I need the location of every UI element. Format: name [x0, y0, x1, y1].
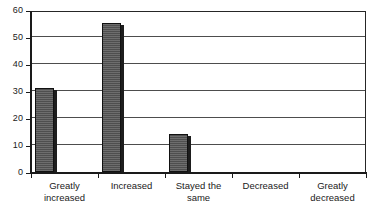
plot-area — [31, 11, 366, 173]
y-tick-label: 50 — [0, 33, 23, 42]
bar — [35, 88, 54, 172]
bar — [169, 134, 188, 172]
y-tick-50 — [26, 38, 31, 39]
x-axis-line — [31, 172, 367, 174]
bar — [102, 23, 121, 172]
x-tick — [31, 173, 32, 178]
y-tick-label: 60 — [0, 6, 23, 15]
x-tick — [98, 173, 99, 178]
bar-group — [102, 12, 125, 172]
gridline-30 — [32, 90, 365, 91]
y-tick-label: 20 — [0, 114, 23, 123]
gridline-40 — [32, 63, 365, 64]
x-tick — [165, 173, 166, 178]
x-tick — [299, 173, 300, 178]
y-tick-30 — [26, 92, 31, 93]
x-tick-label: Stayed the same — [165, 180, 232, 203]
x-tick-label: Greatly increased — [31, 180, 98, 203]
y-tick-10 — [26, 146, 31, 147]
bar-group — [35, 12, 58, 172]
x-tick — [232, 173, 233, 178]
gridline-20 — [32, 117, 365, 118]
x-tick-label: Decreased — [232, 180, 299, 192]
y-tick-label: 10 — [0, 141, 23, 150]
gridline-50 — [32, 36, 365, 37]
x-tick-label: Greatly decreased — [299, 180, 366, 203]
x-tick — [366, 173, 367, 178]
gridline-10 — [32, 144, 365, 145]
y-tick-label: 40 — [0, 60, 23, 69]
x-tick-label: Increased — [98, 180, 165, 192]
y-tick-40 — [26, 65, 31, 66]
y-tick-label: 30 — [0, 87, 23, 96]
bar-group — [169, 12, 192, 172]
bar-chart: 0102030405060 Greatly increasedIncreased… — [0, 0, 376, 211]
y-tick-20 — [26, 119, 31, 120]
y-tick-label: 0 — [0, 168, 23, 177]
y-tick-60 — [26, 11, 31, 12]
